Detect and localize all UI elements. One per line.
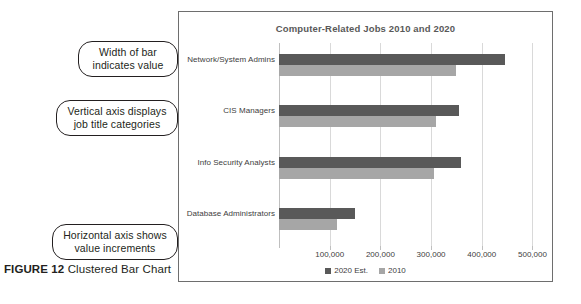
x-tick-label: 300,000 — [417, 250, 446, 259]
chart-container: Computer-Related Jobs 2010 and 2020 Netw… — [178, 11, 553, 282]
bar-2020 — [279, 157, 461, 168]
legend-swatch-icon — [325, 268, 331, 274]
callout-width-of-bar: Width of bar indicates value — [78, 41, 178, 77]
category-label: Network/System Admins — [179, 55, 275, 64]
x-tick-label: 100,000 — [315, 250, 344, 259]
bar-2020 — [279, 105, 459, 116]
legend-label: 2010 — [388, 266, 406, 275]
bar-group: CIS Managers — [279, 94, 535, 145]
callout-vertical-axis: Vertical axis displays job title categor… — [56, 100, 178, 136]
legend-item: 2020 Est. — [325, 266, 368, 275]
figure-number: FIGURE 12 — [4, 263, 64, 275]
bar-2020 — [279, 208, 355, 219]
figure-caption-text: Clustered Bar Chart — [64, 263, 171, 275]
x-tick-label: 400,000 — [467, 250, 496, 259]
chart-title: Computer-Related Jobs 2010 and 2020 — [179, 23, 552, 34]
category-label: Info Security Analysts — [179, 158, 275, 167]
bar-group: Info Security Analysts — [279, 146, 535, 197]
callout-horizontal-axis: Horizontal axis shows value increments — [52, 224, 178, 260]
figure-caption: FIGURE 12 Clustered Bar Chart — [4, 262, 174, 276]
chart-legend: 2020 Est.2010 — [179, 266, 552, 275]
bar-2020 — [279, 54, 505, 65]
x-tick-label: 200,000 — [366, 250, 395, 259]
horizontal-axis-labels: 100,000200,000300,000400,000500,000 — [279, 250, 535, 264]
bar-2010 — [279, 219, 337, 230]
bar-group: Network/System Admins — [279, 43, 535, 94]
category-label: CIS Managers — [179, 106, 275, 115]
bar-2010 — [279, 65, 456, 76]
bar-group: Database Administrators — [279, 197, 535, 248]
legend-label: 2020 Est. — [334, 266, 368, 275]
legend-item: 2010 — [379, 266, 406, 275]
bar-2010 — [279, 116, 436, 127]
x-tick-label: 500,000 — [518, 250, 547, 259]
bar-2010 — [279, 168, 434, 179]
plot-area: Network/System AdminsCIS ManagersInfo Se… — [279, 43, 535, 248]
legend-swatch-icon — [379, 268, 385, 274]
category-label: Database Administrators — [179, 209, 275, 218]
